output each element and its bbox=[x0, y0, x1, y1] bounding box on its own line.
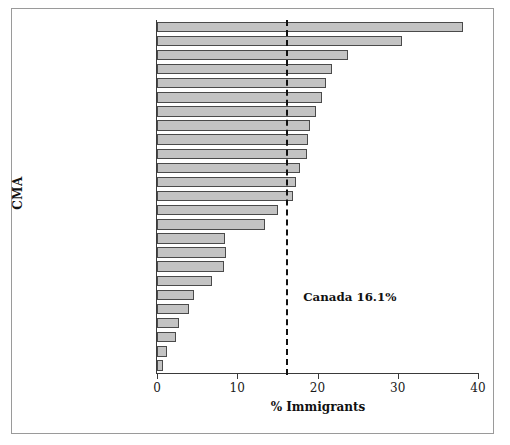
bar bbox=[157, 149, 307, 159]
x-tick bbox=[237, 373, 238, 379]
bar-row: Edmonton bbox=[157, 147, 478, 161]
bar-row: Oshawa bbox=[157, 175, 478, 189]
bar bbox=[157, 36, 402, 46]
bar bbox=[157, 276, 212, 286]
bar bbox=[157, 318, 179, 328]
plot-area: TorontoVancouverHamiltonKitchenerWindsor… bbox=[157, 20, 478, 373]
bar bbox=[157, 106, 316, 116]
bar bbox=[157, 92, 322, 102]
bar-row: Montreal bbox=[157, 189, 478, 203]
bar-row: Winnipeg bbox=[157, 161, 478, 175]
bar bbox=[157, 247, 226, 257]
x-axis-title: % Immigrants bbox=[157, 400, 479, 414]
bar bbox=[157, 64, 332, 74]
x-tick-label: 0 bbox=[153, 381, 161, 395]
bar-row: Toronto bbox=[157, 20, 478, 34]
bar bbox=[157, 332, 176, 342]
bar-row: Calgary bbox=[157, 91, 478, 105]
bar-row: St. John's bbox=[157, 316, 478, 330]
bar-row: Chicoutimi-Jonquière bbox=[157, 359, 478, 373]
bar bbox=[157, 191, 293, 201]
bar bbox=[157, 304, 189, 314]
bar bbox=[157, 219, 265, 229]
x-tick-label: 30 bbox=[390, 381, 405, 395]
bar-row: London bbox=[157, 133, 478, 147]
x-tick-label: 20 bbox=[310, 381, 325, 395]
canada-reference-label: Canada 16.1% bbox=[303, 290, 396, 304]
bar bbox=[157, 290, 194, 300]
bar bbox=[157, 163, 300, 173]
bar-row: Vancouver bbox=[157, 34, 478, 48]
bar bbox=[157, 233, 225, 243]
x-tick-label: 40 bbox=[470, 381, 485, 395]
canada-reference-line bbox=[286, 20, 288, 375]
bar-row: Halifax bbox=[157, 274, 478, 288]
x-tick-label: 10 bbox=[230, 381, 245, 395]
bar bbox=[157, 205, 278, 215]
bar bbox=[157, 78, 326, 88]
bar-row: Quebec bbox=[157, 330, 478, 344]
bar-row: Victoria bbox=[157, 105, 478, 119]
bar-row: Thunder Bay bbox=[157, 218, 478, 232]
bar-row: Saskatoon bbox=[157, 246, 478, 260]
bar bbox=[157, 261, 224, 271]
bar bbox=[157, 50, 348, 60]
x-tick bbox=[478, 373, 479, 379]
bar-row: Trois-Rivières bbox=[157, 345, 478, 359]
x-tick bbox=[398, 373, 399, 379]
bar bbox=[157, 22, 463, 32]
x-tick bbox=[318, 373, 319, 379]
bar-row: Sudbury bbox=[157, 260, 478, 274]
bar-row: Windsor bbox=[157, 76, 478, 90]
bar-row: Regina bbox=[157, 232, 478, 246]
bar-row: St. Catharines-Niagara bbox=[157, 119, 478, 133]
chart-page: CMA TorontoVancouverHamiltonKitchenerWin… bbox=[0, 0, 510, 445]
bar-row: Kitchener bbox=[157, 62, 478, 76]
x-tick bbox=[157, 373, 158, 379]
bar-row: Sherbrooke bbox=[157, 302, 478, 316]
bar bbox=[157, 177, 296, 187]
bar-row: Hamilton bbox=[157, 48, 478, 62]
y-axis-title: CMA bbox=[11, 163, 25, 223]
bar bbox=[157, 360, 163, 370]
bar bbox=[157, 346, 167, 356]
bar-row: Ottawa-Hull bbox=[157, 203, 478, 217]
